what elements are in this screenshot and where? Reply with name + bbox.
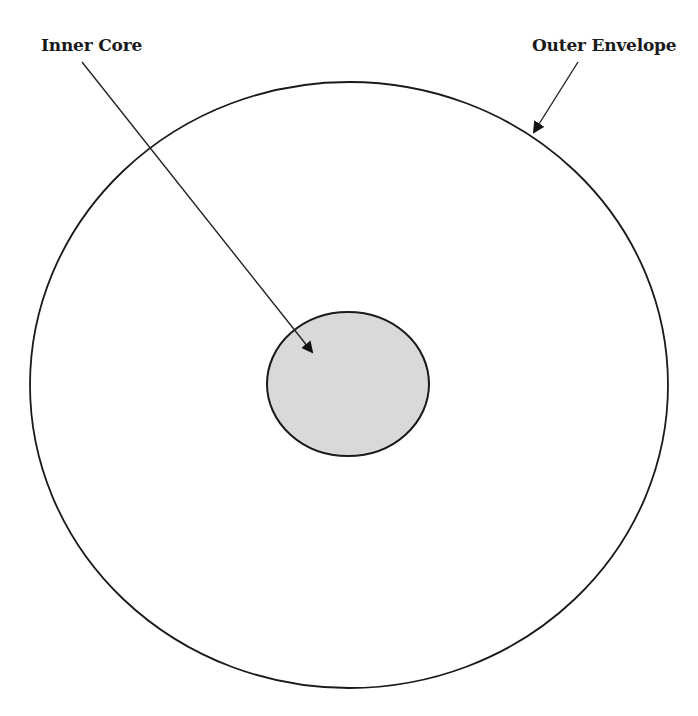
inner-core-label: Inner Core — [41, 35, 142, 55]
concentric-circle-diagram — [0, 0, 698, 716]
outer-envelope-label: Outer Envelope — [532, 35, 676, 55]
inner-core-circle — [267, 312, 429, 456]
outer-envelope-arrow — [534, 62, 578, 132]
